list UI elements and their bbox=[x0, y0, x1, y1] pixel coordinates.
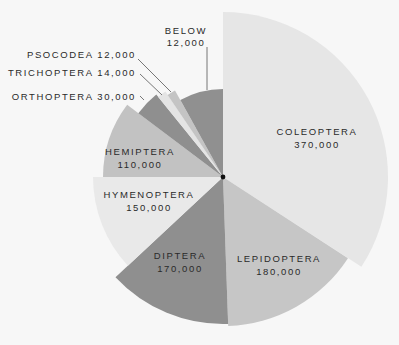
label-orthoptera: ORTHOPTERA 30,000 bbox=[12, 91, 136, 102]
label-lepidoptera-value: 180,000 bbox=[256, 266, 302, 277]
leader-line-psocodea bbox=[138, 59, 171, 92]
label-coleoptera-value: 370,000 bbox=[294, 139, 340, 150]
label-diptera-name: DIPTERA bbox=[154, 250, 206, 261]
label-trichoptera: TRICHOPTERA 14,000 bbox=[8, 67, 136, 78]
label-diptera-value: 170,000 bbox=[157, 263, 203, 274]
leader-line-trichoptera bbox=[140, 74, 162, 95]
leader-line-orthoptera bbox=[140, 96, 144, 100]
center-dot bbox=[221, 175, 226, 180]
label-hemiptera-value: 110,000 bbox=[118, 159, 163, 170]
label-below-value: 12,000 bbox=[167, 37, 206, 48]
label-below-name: BELOW bbox=[165, 25, 207, 36]
polar-area-chart: COLEOPTERA 370,000 LEPIDOPTERA 180,000 D… bbox=[0, 0, 399, 345]
label-psocodea: PSOCODEA 12,000 bbox=[27, 49, 136, 60]
label-lepidoptera-name: LEPIDOPTERA bbox=[237, 253, 321, 264]
label-hymenoptera-name: HYMENOPTERA bbox=[104, 189, 195, 200]
label-hemiptera-name: HEMIPTERA bbox=[105, 146, 175, 157]
label-hymenoptera-value: 150,000 bbox=[126, 202, 172, 213]
label-coleoptera-name: COLEOPTERA bbox=[277, 126, 358, 137]
